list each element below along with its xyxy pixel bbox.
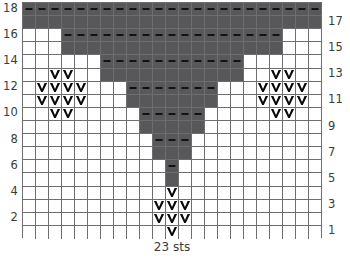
chart-cell[interactable]: [309, 160, 321, 173]
chart-cell[interactable]: [179, 42, 192, 55]
chart-cell[interactable]: [127, 95, 140, 108]
chart-cell[interactable]: [179, 121, 192, 134]
chart-cell[interactable]: [192, 55, 205, 68]
chart-cell[interactable]: [127, 226, 140, 239]
chart-cell[interactable]: [309, 121, 321, 134]
chart-cell[interactable]: [231, 108, 244, 121]
chart-cell[interactable]: [257, 29, 270, 42]
chart-cell[interactable]: [49, 226, 62, 239]
chart-cell[interactable]: [166, 200, 179, 213]
chart-cell[interactable]: [192, 121, 205, 134]
chart-cell[interactable]: [231, 226, 244, 239]
chart-cell[interactable]: [192, 213, 205, 226]
chart-cell[interactable]: [244, 213, 257, 226]
chart-cell[interactable]: [192, 69, 205, 82]
chart-cell[interactable]: [205, 134, 218, 147]
chart-cell[interactable]: [127, 121, 140, 134]
chart-cell[interactable]: [62, 147, 75, 160]
chart-cell[interactable]: [166, 16, 179, 29]
chart-cell[interactable]: [244, 108, 257, 121]
chart-cell[interactable]: [127, 200, 140, 213]
chart-cell[interactable]: [140, 147, 153, 160]
chart-cell[interactable]: [153, 55, 166, 68]
chart-cell[interactable]: [75, 121, 88, 134]
chart-cell[interactable]: [270, 3, 283, 16]
chart-cell[interactable]: [192, 42, 205, 55]
chart-cell[interactable]: [88, 108, 101, 121]
chart-cell[interactable]: [140, 200, 153, 213]
chart-cell[interactable]: [49, 3, 62, 16]
chart-cell[interactable]: [101, 213, 114, 226]
chart-cell[interactable]: [218, 29, 231, 42]
chart-cell[interactable]: [114, 69, 127, 82]
chart-cell[interactable]: [257, 69, 270, 82]
chart-cell[interactable]: [36, 160, 49, 173]
chart-cell[interactable]: [36, 187, 49, 200]
chart-cell[interactable]: [231, 160, 244, 173]
chart-cell[interactable]: [153, 3, 166, 16]
chart-cell[interactable]: [166, 226, 179, 239]
chart-cell[interactable]: [283, 160, 296, 173]
chart-cell[interactable]: [283, 173, 296, 186]
chart-cell[interactable]: [88, 95, 101, 108]
chart-cell[interactable]: [75, 200, 88, 213]
chart-cell[interactable]: [49, 108, 62, 121]
chart-cell[interactable]: [23, 173, 36, 186]
chart-cell[interactable]: [75, 42, 88, 55]
chart-cell[interactable]: [283, 3, 296, 16]
chart-cell[interactable]: [153, 147, 166, 160]
chart-cell[interactable]: [101, 16, 114, 29]
chart-cell[interactable]: [257, 226, 270, 239]
chart-cell[interactable]: [283, 29, 296, 42]
chart-cell[interactable]: [257, 42, 270, 55]
chart-cell[interactable]: [166, 3, 179, 16]
chart-cell[interactable]: [166, 29, 179, 42]
chart-cell[interactable]: [296, 173, 309, 186]
chart-cell[interactable]: [283, 108, 296, 121]
chart-cell[interactable]: [23, 160, 36, 173]
chart-cell[interactable]: [75, 173, 88, 186]
chart-cell[interactable]: [205, 16, 218, 29]
chart-cell[interactable]: [75, 187, 88, 200]
chart-cell[interactable]: [205, 3, 218, 16]
chart-cell[interactable]: [309, 82, 321, 95]
chart-cell[interactable]: [283, 226, 296, 239]
chart-cell[interactable]: [179, 134, 192, 147]
chart-cell[interactable]: [49, 121, 62, 134]
chart-cell[interactable]: [218, 213, 231, 226]
chart-cell[interactable]: [140, 213, 153, 226]
chart-cell[interactable]: [179, 95, 192, 108]
chart-cell[interactable]: [244, 121, 257, 134]
chart-cell[interactable]: [140, 95, 153, 108]
chart-cell[interactable]: [153, 160, 166, 173]
chart-cell[interactable]: [49, 69, 62, 82]
chart-cell[interactable]: [205, 121, 218, 134]
chart-cell[interactable]: [179, 187, 192, 200]
chart-cell[interactable]: [36, 95, 49, 108]
chart-cell[interactable]: [205, 29, 218, 42]
chart-cell[interactable]: [179, 16, 192, 29]
chart-cell[interactable]: [296, 82, 309, 95]
chart-cell[interactable]: [75, 108, 88, 121]
chart-cell[interactable]: [205, 69, 218, 82]
chart-cell[interactable]: [49, 160, 62, 173]
chart-cell[interactable]: [218, 3, 231, 16]
chart-cell[interactable]: [296, 121, 309, 134]
chart-cell[interactable]: [296, 29, 309, 42]
chart-cell[interactable]: [88, 82, 101, 95]
chart-cell[interactable]: [36, 108, 49, 121]
chart-cell[interactable]: [192, 82, 205, 95]
chart-cell[interactable]: [283, 134, 296, 147]
chart-cell[interactable]: [49, 82, 62, 95]
chart-cell[interactable]: [179, 55, 192, 68]
chart-cell[interactable]: [49, 42, 62, 55]
chart-cell[interactable]: [166, 187, 179, 200]
chart-cell[interactable]: [88, 16, 101, 29]
chart-cell[interactable]: [270, 187, 283, 200]
chart-cell[interactable]: [62, 42, 75, 55]
chart-cell[interactable]: [270, 95, 283, 108]
chart-cell[interactable]: [296, 226, 309, 239]
chart-cell[interactable]: [244, 42, 257, 55]
chart-cell[interactable]: [49, 213, 62, 226]
chart-cell[interactable]: [114, 200, 127, 213]
